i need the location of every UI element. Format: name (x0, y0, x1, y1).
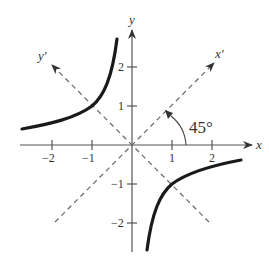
y-tick-label: 1 (118, 99, 124, 113)
hyperbola-branch-lower-right (147, 160, 241, 250)
y-tick-label: 2 (118, 60, 124, 74)
rotated-axes-diagram: x y x′ y′ −2 −1 1 2 2 1 −1 −2 45° (0, 0, 269, 264)
angle-label: 45° (189, 118, 213, 137)
x-tick-label: −1 (82, 151, 95, 165)
angle-arc (165, 110, 186, 145)
x-tick-label: −2 (42, 151, 55, 165)
x-tick-label: 1 (169, 151, 175, 165)
rotated-x-axis (55, 63, 214, 222)
y-tick-label: −2 (111, 216, 124, 230)
y-axis-label: y (127, 12, 135, 27)
rotated-x-axis-label: x′ (214, 46, 224, 61)
y-tick-label: −1 (111, 177, 124, 191)
x-tick-label: 2 (209, 151, 215, 165)
x-axis-label: x (255, 137, 262, 152)
hyperbola-branch-upper-left (22, 39, 117, 129)
rotated-y-axis-label: y′ (36, 48, 47, 63)
